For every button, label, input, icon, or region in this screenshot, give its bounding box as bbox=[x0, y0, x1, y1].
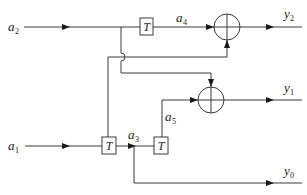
arrow-icon bbox=[208, 79, 214, 87]
svg-text:2: 2 bbox=[290, 14, 294, 23]
arrow-icon bbox=[62, 24, 70, 30]
svg-text:0: 0 bbox=[290, 171, 294, 180]
signal-flow-diagram: a 2 T a 4 y 2 y 1 bbox=[0, 0, 307, 195]
input-a1-label: a 1 bbox=[8, 138, 19, 155]
svg-text:a: a bbox=[8, 138, 15, 153]
output-y1-label: y 1 bbox=[282, 80, 294, 97]
input-a2-label: a 2 bbox=[8, 19, 19, 36]
svg-text:y: y bbox=[282, 6, 290, 21]
delay-block-bottom-left: T bbox=[102, 137, 116, 154]
svg-text:2: 2 bbox=[15, 27, 19, 36]
output-y0-label: y 0 bbox=[282, 163, 294, 180]
svg-text:1: 1 bbox=[15, 146, 19, 155]
arrow-icon bbox=[266, 180, 274, 186]
svg-text:y: y bbox=[282, 163, 290, 178]
svg-text:4: 4 bbox=[183, 18, 187, 27]
svg-text:a: a bbox=[165, 109, 172, 124]
arrow-icon bbox=[62, 143, 70, 149]
delay-block-bottom-right: T bbox=[154, 137, 168, 154]
svg-text:1: 1 bbox=[290, 88, 294, 97]
signal-a5-label: a 5 bbox=[165, 109, 176, 126]
adder-y1 bbox=[198, 87, 224, 113]
svg-text:5: 5 bbox=[172, 117, 176, 126]
arrow-icon bbox=[224, 40, 230, 48]
svg-text:a: a bbox=[128, 127, 135, 142]
arrow-icon bbox=[266, 97, 274, 103]
arrow-icon bbox=[190, 97, 198, 103]
arrow-icon bbox=[206, 24, 214, 30]
delay-block-top: T bbox=[140, 18, 153, 35]
output-y2-label: y 2 bbox=[282, 6, 294, 23]
arrow-icon bbox=[266, 24, 274, 30]
signal-a4-label: a 4 bbox=[176, 10, 187, 27]
adder-y2 bbox=[214, 14, 240, 40]
svg-text:3: 3 bbox=[135, 135, 139, 144]
svg-text:a: a bbox=[176, 10, 183, 25]
svg-text:y: y bbox=[282, 80, 290, 95]
signal-a3-label: a 3 bbox=[128, 127, 139, 144]
svg-text:a: a bbox=[8, 19, 15, 34]
